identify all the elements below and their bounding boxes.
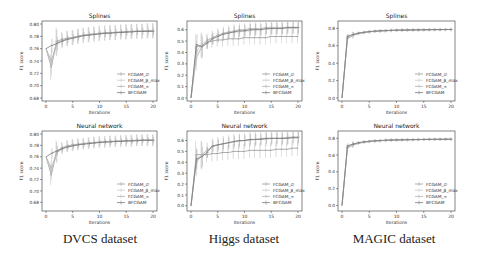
axes-frame (338, 21, 455, 101)
x-tick-label: 15 (123, 214, 129, 219)
chart-title: Splines (234, 12, 256, 20)
x-tick-label: 5 (71, 104, 74, 109)
y-tick-label: 0.74 (29, 59, 39, 64)
chart-title: Neural network (373, 122, 420, 129)
x-tick-label: 10 (97, 214, 103, 219)
y-tick-label: 0.0 (328, 203, 335, 208)
figure-canvas: Splines0.680.700.720.740.760.780.8005101… (0, 0, 484, 259)
y-tick-label: 0.0 (177, 203, 184, 208)
x-tick-label: 5 (216, 104, 219, 109)
x-axis-label: Iterations (386, 110, 408, 115)
chart-panel-2: Splines0.00.20.40.60.805101520Iterations… (315, 12, 458, 115)
x-tick-label: 15 (123, 104, 129, 109)
y-tick-label: 0.2 (177, 73, 184, 78)
legend-entry: BFCGAM (426, 200, 445, 205)
x-axis-label: Iterations (89, 110, 111, 115)
y-axis-label: F1 score (315, 161, 320, 180)
x-axis-label: Iterations (234, 220, 256, 225)
x-tick-label: 20 (295, 104, 301, 109)
y-tick-label: 0.76 (29, 154, 39, 159)
y-tick-label: 0.2 (328, 186, 335, 191)
legend-entry: BFCGAM (128, 90, 147, 95)
y-tick-label: 0.3 (177, 61, 184, 66)
x-tick-label: 10 (97, 104, 103, 109)
chart-title: Splines (386, 12, 408, 20)
y-tick-label: 0.1 (177, 84, 184, 89)
x-tick-label: 10 (394, 214, 400, 219)
x-tick-label: 10 (242, 214, 248, 219)
x-tick-label: 0 (341, 104, 344, 109)
chart-title: Neural network (76, 122, 123, 129)
legend-entry: BFCGAM (273, 200, 292, 205)
x-tick-label: 20 (150, 214, 156, 219)
x-tick-label: 5 (368, 214, 371, 219)
y-axis-label: F1 score (164, 161, 169, 180)
y-tick-label: 0.78 (29, 34, 39, 39)
x-tick-label: 0 (341, 214, 344, 219)
chart-panel-1: Splines0.00.10.20.30.40.50.605101520Iter… (164, 12, 305, 115)
x-tick-label: 10 (242, 104, 248, 109)
axes-frame (338, 131, 455, 211)
caption-magic: MAGIC dataset (324, 231, 464, 247)
y-tick-label: 0.3 (177, 171, 184, 176)
y-tick-label: 0.6 (177, 27, 184, 32)
y-tick-label: 0.70 (29, 189, 39, 194)
x-tick-label: 20 (448, 104, 454, 109)
y-tick-label: 0.2 (328, 78, 335, 83)
x-tick-label: 0 (190, 214, 193, 219)
x-tick-label: 5 (368, 104, 371, 109)
y-axis-label: F1 score (315, 51, 320, 70)
y-tick-label: 0.4 (328, 61, 335, 66)
y-axis-label: F1 score (164, 51, 169, 70)
x-axis-label: Iterations (234, 110, 256, 115)
y-axis-label: F1 score (19, 161, 24, 180)
y-tick-label: 0.1 (177, 193, 184, 198)
y-tick-label: 0.4 (328, 169, 335, 174)
y-tick-label: 0.68 (29, 96, 39, 101)
y-tick-label: 0.74 (29, 166, 39, 171)
legend-entry: BFCGAM (273, 90, 292, 95)
y-tick-label: 0.72 (29, 71, 39, 76)
x-tick-label: 15 (421, 214, 427, 219)
y-tick-label: 0.6 (328, 153, 335, 158)
caption-dvcs: DVCS dataset (30, 231, 170, 247)
caption-higgs: Higgs dataset (174, 231, 314, 247)
chart-panel-5: Neural network0.00.20.40.60.805101520Ite… (315, 122, 458, 225)
legend-entry: BFCGAM (128, 200, 147, 205)
y-axis-label: F1 score (19, 51, 24, 70)
y-tick-label: 0.68 (29, 200, 39, 205)
chart-title: Splines (89, 12, 111, 20)
y-tick-label: 0.6 (177, 138, 184, 143)
x-axis-label: Iterations (386, 220, 408, 225)
y-tick-label: 0.8 (328, 136, 335, 141)
y-tick-label: 0.0 (177, 96, 184, 101)
y-tick-label: 0.5 (177, 149, 184, 154)
y-tick-label: 0.80 (29, 132, 39, 137)
x-tick-label: 5 (71, 214, 74, 219)
x-tick-label: 20 (295, 214, 301, 219)
x-axis-label: Iterations (89, 220, 111, 225)
y-tick-label: 0.76 (29, 46, 39, 51)
y-tick-label: 0.80 (29, 22, 39, 27)
chart-panel-4: Neural network0.00.10.20.30.40.50.605101… (164, 122, 305, 225)
x-tick-label: 15 (421, 104, 427, 109)
chart-panel-0: Splines0.680.700.720.740.760.780.8005101… (19, 12, 160, 115)
x-tick-label: 0 (190, 104, 193, 109)
y-tick-label: 0.5 (177, 39, 184, 44)
y-tick-label: 0.4 (177, 50, 184, 55)
chart-panel-3: Neural network0.680.700.720.740.760.780.… (19, 122, 160, 225)
x-tick-label: 20 (150, 104, 156, 109)
y-tick-label: 0.72 (29, 177, 39, 182)
x-tick-label: 10 (394, 104, 400, 109)
y-tick-label: 0.78 (29, 143, 39, 148)
x-tick-label: 15 (268, 214, 274, 219)
y-tick-label: 0.2 (177, 182, 184, 187)
x-tick-label: 20 (448, 214, 454, 219)
y-tick-label: 0.6 (328, 43, 335, 48)
y-tick-label: 0.0 (328, 96, 335, 101)
y-tick-label: 0.4 (177, 160, 184, 165)
x-tick-label: 0 (45, 104, 48, 109)
x-tick-label: 0 (45, 214, 48, 219)
y-tick-label: 0.70 (29, 83, 39, 88)
x-tick-label: 5 (216, 214, 219, 219)
